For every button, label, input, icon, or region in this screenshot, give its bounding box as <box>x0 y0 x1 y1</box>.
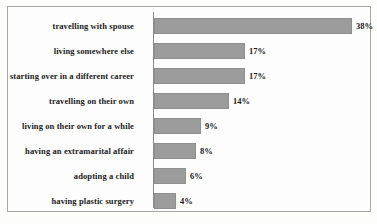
bar-value-label: 6% <box>190 164 203 189</box>
category-label: having an extramarital affair <box>25 139 134 164</box>
category-label: travelling with spouse <box>52 14 134 39</box>
bar-value-label: 4% <box>180 189 193 214</box>
chart-frame: travelling with spouse 38% living somewh… <box>7 6 371 212</box>
bar <box>154 193 176 209</box>
chart-page: travelling with spouse 38% living somewh… <box>0 0 377 224</box>
bar-row: having an extramarital affair 8% <box>8 139 370 164</box>
bar-value-label: 9% <box>205 114 218 139</box>
bar <box>154 18 352 34</box>
bar <box>154 168 186 184</box>
bar <box>154 68 245 84</box>
category-label: starting over in a different career <box>10 64 134 89</box>
bar-row: living on their own for a while 9% <box>8 114 370 139</box>
category-label: living somewhere else <box>54 39 134 64</box>
bar-row: living somewhere else 17% <box>8 39 370 64</box>
bar-value-label: 8% <box>200 139 213 164</box>
bar-value-label: 17% <box>249 64 266 89</box>
bar-value-label: 17% <box>249 39 266 64</box>
bar-row: having plastic surgery 4% <box>8 189 370 214</box>
bar <box>154 93 229 109</box>
bar-row: adopting a child 6% <box>8 164 370 189</box>
bar-row: travelling on their own 14% <box>8 89 370 114</box>
plot-area: travelling with spouse 38% living somewh… <box>8 7 370 211</box>
category-label: travelling on their own <box>49 89 134 114</box>
bar <box>154 118 201 134</box>
category-label: having plastic surgery <box>52 189 134 214</box>
category-label: living on their own for a while <box>22 114 134 139</box>
bar-row: travelling with spouse 38% <box>8 14 370 39</box>
bar-value-label: 38% <box>356 14 373 39</box>
bar-row: starting over in a different career 17% <box>8 64 370 89</box>
bar <box>154 143 196 159</box>
bar <box>154 43 245 59</box>
category-label: adopting a child <box>74 164 134 189</box>
bar-value-label: 14% <box>233 89 250 114</box>
